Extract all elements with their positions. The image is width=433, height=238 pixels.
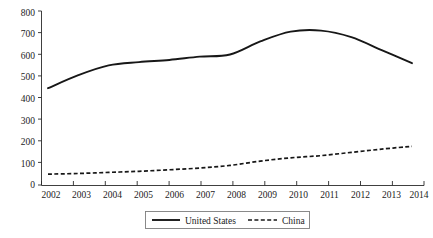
x-tick-label: 2012 xyxy=(351,190,370,200)
chart-legend: United States China xyxy=(146,212,310,229)
series-line-china xyxy=(48,146,412,174)
chart-figure: 800 700 600 500 400 300 200 100 0 xyxy=(0,0,433,238)
x-tick-label: 2004 xyxy=(103,190,122,200)
x-axis-tick-labels: 2002 2003 2004 2005 2006 2007 2008 2009 … xyxy=(42,190,429,200)
line-chart: 800 700 600 500 400 300 200 100 0 xyxy=(0,0,433,238)
y-axis-ticks xyxy=(38,11,42,185)
series-line-united-states xyxy=(48,30,412,88)
y-tick-label: 300 xyxy=(21,116,36,126)
x-tick-label: 2003 xyxy=(72,190,91,200)
y-tick-label: 0 xyxy=(30,180,35,190)
x-tick-label: 2002 xyxy=(42,190,61,200)
x-tick-label: 2006 xyxy=(165,190,184,200)
x-axis-ticks xyxy=(42,181,425,186)
x-tick-label: 2010 xyxy=(289,190,308,200)
x-tick-label: 2013 xyxy=(382,190,401,200)
y-tick-label: 600 xyxy=(21,51,36,61)
x-tick-label: 2011 xyxy=(320,190,339,200)
y-tick-label: 800 xyxy=(21,8,36,18)
y-tick-label: 500 xyxy=(21,72,36,82)
legend-label-united-states: United States xyxy=(185,216,236,226)
y-tick-label: 100 xyxy=(21,159,36,169)
x-tick-label: 2009 xyxy=(258,190,277,200)
legend-label-china: China xyxy=(282,216,305,226)
y-tick-label: 700 xyxy=(21,29,36,39)
x-tick-label: 2008 xyxy=(227,190,246,200)
y-tick-label: 200 xyxy=(21,137,36,147)
x-tick-label: 2014 xyxy=(410,190,429,200)
x-tick-label: 2005 xyxy=(134,190,153,200)
x-tick-label: 2007 xyxy=(196,190,215,200)
y-tick-label: 400 xyxy=(21,94,36,104)
y-axis-tick-labels: 800 700 600 500 400 300 200 100 0 xyxy=(21,8,36,191)
